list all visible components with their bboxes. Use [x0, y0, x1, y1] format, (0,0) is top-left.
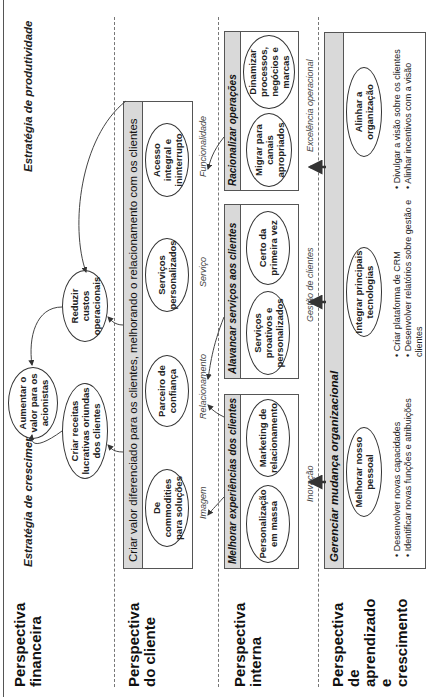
- strategy-map-page: Perspectiva financeira Perspectiva do cl…: [0, 0, 440, 697]
- strategy-map-canvas: Perspectiva financeira Perspectiva do cl…: [0, 0, 440, 697]
- connector-arrows: [0, 0, 440, 697]
